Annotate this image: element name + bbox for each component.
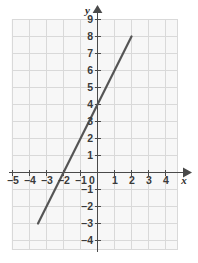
y-axis-label: y <box>83 4 90 16</box>
y-tick-label: 5 <box>87 81 93 93</box>
y-tick-label: –4 <box>81 234 93 246</box>
y-axis-arrow-icon <box>93 5 103 13</box>
x-tick-label: 1 <box>112 174 118 186</box>
y-tick-label: –1 <box>81 183 93 195</box>
x-tick-label: –2 <box>58 174 70 186</box>
y-tick-label: 4 <box>87 98 93 110</box>
x-tick-label: –4 <box>24 174 36 186</box>
y-tick-label: 7 <box>87 47 93 59</box>
graph-canvas: –5 –4 –3 –2 –1 0 1 2 3 4 9 8 7 6 5 4 3 2… <box>0 0 198 263</box>
x-tick-label: –5 <box>7 174 19 186</box>
y-tick-label: 2 <box>87 132 93 144</box>
coordinate-plane-figure: –5 –4 –3 –2 –1 0 1 2 3 4 9 8 7 6 5 4 3 2… <box>0 0 198 263</box>
x-tick-label: 2 <box>129 174 135 186</box>
y-tick-label: –3 <box>81 217 93 229</box>
y-tick-label: 8 <box>87 30 93 42</box>
y-tick-label: 6 <box>87 64 93 76</box>
x-tick-label: 4 <box>163 174 169 186</box>
y-tick-label: –2 <box>81 200 93 212</box>
x-tick-label: 3 <box>146 174 152 186</box>
y-tick-label: 1 <box>87 149 93 161</box>
x-tick-label: –3 <box>41 174 53 186</box>
y-tick-label: 3 <box>87 115 93 127</box>
x-axis-label: x <box>180 174 187 186</box>
